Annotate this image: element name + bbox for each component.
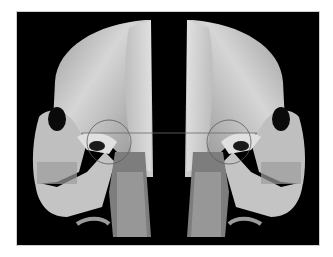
ct-image-frame (16, 11, 320, 246)
right-skull (185, 20, 305, 237)
left-skull (33, 20, 153, 237)
ct-skull-rendering (17, 12, 320, 246)
